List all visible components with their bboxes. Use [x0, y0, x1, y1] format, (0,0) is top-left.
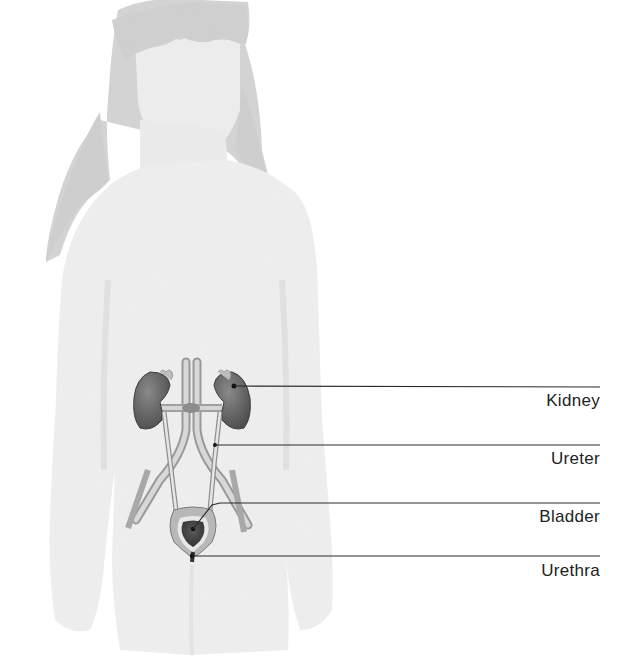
label-kidney: Kidney [546, 391, 600, 411]
label-urethra: Urethra [541, 561, 600, 581]
diagram-canvas [0, 0, 620, 664]
urinary-system-diagram: Kidney Ureter Bladder Urethra [0, 0, 620, 664]
label-bladder: Bladder [539, 507, 600, 527]
label-ureter: Ureter [551, 449, 600, 469]
